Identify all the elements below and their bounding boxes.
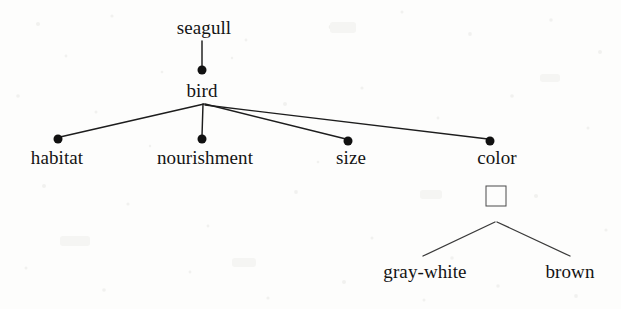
- edge-colorslot-brown: [497, 222, 570, 256]
- edge-bird-nourishment: [202, 104, 203, 136]
- node-square-color-slot[interactable]: [486, 186, 507, 207]
- node-dot-size[interactable]: [344, 137, 353, 146]
- edge-colorslot-gray-white: [423, 222, 495, 256]
- node-label-nourishment: nourishment: [157, 148, 253, 167]
- node-dot-habitat[interactable]: [54, 135, 63, 144]
- node-label-habitat: habitat: [31, 148, 83, 167]
- tree-edges: [0, 0, 621, 309]
- node-label-brown: brown: [545, 262, 594, 281]
- node-dot-color[interactable]: [486, 137, 495, 146]
- node-label-color: color: [477, 148, 517, 167]
- node-label-bird: bird: [186, 81, 217, 100]
- edge-bird-size: [205, 104, 346, 139]
- edge-bird-color: [205, 105, 488, 139]
- node-dot-nourishment[interactable]: [198, 135, 207, 144]
- edge-bird-habitat: [60, 104, 204, 137]
- node-dot-bird[interactable]: [198, 66, 207, 75]
- diagram-canvas: seagull bird habitat nourishment size co…: [0, 0, 621, 309]
- node-label-size: size: [336, 148, 366, 167]
- node-label-gray-white: gray-white: [383, 262, 466, 281]
- node-label-seagull: seagull: [177, 18, 232, 37]
